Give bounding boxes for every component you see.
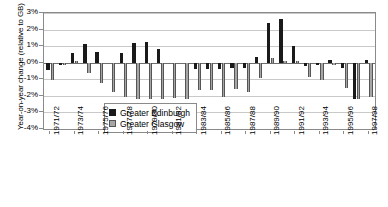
x-tick-mark [270,131,271,134]
bar-edinburgh [46,63,49,70]
x-tick-label: 1983/84 [200,106,208,135]
bar-glasgow [369,63,372,97]
bar-glasgow [198,63,201,90]
bar-glasgow [296,61,299,62]
bar-edinburgh [59,63,62,65]
bar-edinburgh [132,43,135,63]
bar-glasgow [87,63,90,74]
bar-glasgow [271,58,274,63]
bar-edinburgh [206,63,209,69]
y-tick-label: 0% [8,58,38,66]
bar-glasgow [63,63,66,65]
bar-edinburgh [218,63,221,69]
gridline [44,96,375,97]
bar-edinburgh [230,63,233,68]
x-tick-label: 1995/96 [347,106,355,135]
y-tick-label: -1% [8,74,38,82]
x-tick-mark [74,131,75,134]
x-tick-label: 1993/94 [322,106,330,135]
bar-edinburgh [83,44,86,63]
bar-glasgow [247,63,250,93]
x-tick-mark [123,131,124,134]
bar-edinburgh [279,19,282,63]
legend-swatch-glasgow-icon [109,120,116,127]
x-tick-label: 1985/86 [224,106,232,135]
y-tick-label: 1% [8,41,38,49]
bar-glasgow [149,63,152,100]
x-tick-label: 1991/92 [298,106,306,135]
bar-glasgow [222,63,225,97]
x-tick-label: 1975/76 [102,106,110,135]
bar-edinburgh [255,57,258,63]
bar-edinburgh [267,23,270,63]
bar-edinburgh [120,53,123,63]
bar-edinburgh [194,63,197,69]
x-tick-mark [343,131,344,134]
bar-glasgow [161,63,164,99]
x-tick-label: 1977/78 [126,106,134,135]
x-tick-label: 1997/98 [371,106,379,135]
bar-edinburgh [292,46,295,62]
x-tick-label: 1989/90 [273,106,281,135]
x-tick-label: 1971/72 [53,106,61,135]
x-tick-mark [221,131,222,134]
bar-edinburgh [328,60,331,63]
bar-edinburgh [304,63,307,67]
bar-glasgow [75,61,78,63]
bar-glasgow [234,63,237,89]
bar-glasgow [308,63,311,78]
bar-glasgow [210,63,213,90]
bar-glasgow [259,63,262,79]
bar-edinburgh [71,53,74,63]
bar-glasgow [332,63,335,65]
x-tick-mark [294,131,295,134]
bar-edinburgh [316,63,319,65]
y-tick-label: -3% [8,107,38,115]
x-tick-label: 1987/88 [249,106,257,135]
x-tick-mark [245,131,246,134]
y-tick-label: -2% [8,91,38,99]
y-tick-label: 2% [8,25,38,33]
y-tick-label: -4% [8,124,38,132]
bar-glasgow [320,63,323,80]
bar-edinburgh [353,63,356,99]
bar-edinburgh [145,42,148,63]
bar-glasgow [357,63,360,99]
x-axis-ticks: 1971/721973/741975/761977/781979/801981/… [43,131,376,207]
x-tick-mark [368,131,369,134]
legend-swatch-edinburgh-icon [109,109,116,116]
x-tick-label: 1981/82 [175,106,183,135]
chart-container: Year-on-year change (relative to GB) 3%2… [0,0,388,207]
bar-glasgow [173,63,176,98]
bar-glasgow [51,63,54,80]
bar-glasgow [283,61,286,63]
x-tick-mark [49,131,50,134]
gridline [44,30,375,31]
bar-glasgow [345,63,348,89]
x-tick-label: 1973/74 [77,106,85,135]
bar-glasgow [112,63,115,93]
bar-glasgow [124,63,127,97]
bar-edinburgh [95,52,98,62]
x-tick-mark [196,131,197,134]
bar-edinburgh [365,60,368,63]
x-tick-mark [98,131,99,134]
x-tick-mark [147,131,148,134]
bar-glasgow [185,63,188,99]
gridline [44,46,375,47]
gridline [44,13,375,14]
bar-edinburgh [243,63,246,68]
x-tick-label: 1979/80 [151,106,159,135]
y-tick-label: 3% [8,8,38,16]
x-tick-mark [172,131,173,134]
bar-glasgow [100,63,103,84]
bar-edinburgh [341,63,344,68]
bar-glasgow [136,63,139,99]
x-tick-mark [319,131,320,134]
bar-edinburgh [157,49,160,63]
